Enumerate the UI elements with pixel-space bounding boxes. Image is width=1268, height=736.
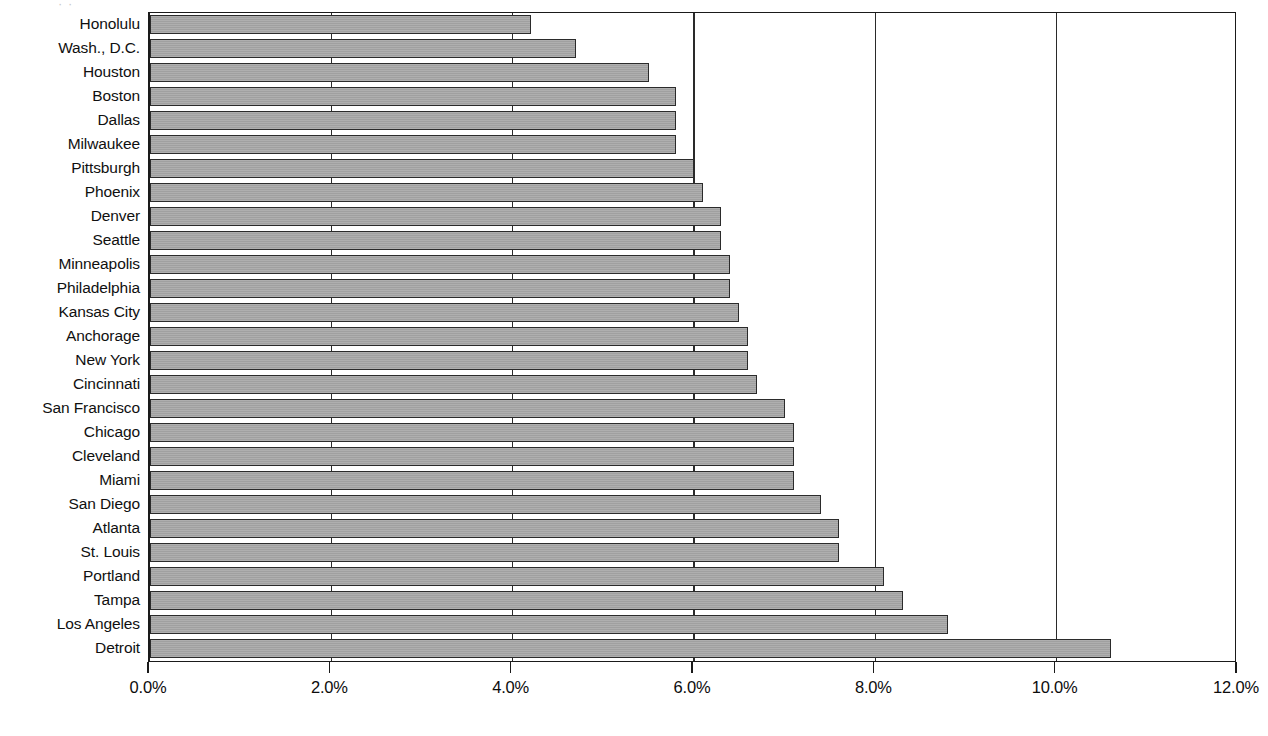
category-label: Boston xyxy=(0,88,140,104)
bar xyxy=(150,231,721,250)
bar-row xyxy=(150,85,1238,109)
bar xyxy=(150,567,884,586)
x-axis: 0.0%2.0%4.0%6.0%8.0%10.0%12.0% xyxy=(148,662,1236,722)
x-tick xyxy=(1235,662,1237,673)
x-tick xyxy=(691,662,693,673)
x-tick xyxy=(873,662,875,673)
bar-row xyxy=(150,349,1238,373)
category-label: Phoenix xyxy=(0,184,140,200)
bar xyxy=(150,63,649,82)
category-label: New York xyxy=(0,352,140,368)
category-label: Cincinnati xyxy=(0,376,140,392)
bar xyxy=(150,111,676,130)
x-tick-label: 6.0% xyxy=(674,678,711,696)
bar-row xyxy=(150,517,1238,541)
bar xyxy=(150,207,721,226)
bar xyxy=(150,519,839,538)
bar xyxy=(150,183,703,202)
category-label: Honolulu xyxy=(0,16,140,32)
bar xyxy=(150,447,794,466)
x-tick-label: 12.0% xyxy=(1213,678,1259,696)
bar-row xyxy=(150,37,1238,61)
bar-row xyxy=(150,589,1238,613)
bar-row xyxy=(150,109,1238,133)
bar xyxy=(150,87,676,106)
plot-area xyxy=(148,12,1236,662)
category-label: Dallas xyxy=(0,112,140,128)
category-label: San Francisco xyxy=(0,400,140,416)
category-label: Atlanta xyxy=(0,520,140,536)
category-label: San Diego xyxy=(0,496,140,512)
bar-row xyxy=(150,133,1238,157)
bar xyxy=(150,303,739,322)
bar-row xyxy=(150,565,1238,589)
bar xyxy=(150,279,730,298)
category-label: Wash., D.C. xyxy=(0,40,140,56)
category-axis-labels: HonoluluWash., D.C.HoustonBostonDallasMi… xyxy=(0,12,140,662)
bar-row xyxy=(150,637,1238,661)
bar-row xyxy=(150,13,1238,37)
x-tick xyxy=(1054,662,1056,673)
x-tick-label: 8.0% xyxy=(855,678,892,696)
category-label: Pittsburgh xyxy=(0,160,140,176)
bar xyxy=(150,639,1111,658)
category-label: Miami xyxy=(0,472,140,488)
bar xyxy=(150,255,730,274)
bar-row xyxy=(150,325,1238,349)
bar xyxy=(150,351,748,370)
horizontal-bar-chart: · · HonoluluWash., D.C.HoustonBostonDall… xyxy=(0,0,1268,736)
bar-row xyxy=(150,253,1238,277)
category-label: Tampa xyxy=(0,592,140,608)
category-label: Cleveland xyxy=(0,448,140,464)
x-tick-label: 0.0% xyxy=(130,678,167,696)
bar-row xyxy=(150,301,1238,325)
bar xyxy=(150,159,694,178)
category-label: Houston xyxy=(0,64,140,80)
bar xyxy=(150,423,794,442)
category-label: Seattle xyxy=(0,232,140,248)
bar xyxy=(150,375,757,394)
bar-row xyxy=(150,613,1238,637)
bar xyxy=(150,471,794,490)
bar-row xyxy=(150,397,1238,421)
category-label: Kansas City xyxy=(0,304,140,320)
bar-row xyxy=(150,373,1238,397)
x-tick-label: 4.0% xyxy=(492,678,529,696)
category-label: Milwaukee xyxy=(0,136,140,152)
category-label: Minneapolis xyxy=(0,256,140,272)
category-label: Anchorage xyxy=(0,328,140,344)
bar xyxy=(150,399,785,418)
bar xyxy=(150,495,821,514)
bar-row xyxy=(150,205,1238,229)
bar xyxy=(150,591,903,610)
bar-row xyxy=(150,541,1238,565)
category-label: St. Louis xyxy=(0,544,140,560)
bar-row xyxy=(150,469,1238,493)
bar xyxy=(150,543,839,562)
x-tick xyxy=(329,662,331,673)
category-label: Los Angeles xyxy=(0,616,140,632)
bar xyxy=(150,15,531,34)
bar-row xyxy=(150,157,1238,181)
bar-row xyxy=(150,181,1238,205)
bar-row xyxy=(150,493,1238,517)
x-tick xyxy=(147,662,149,673)
x-tick-label: 2.0% xyxy=(311,678,348,696)
category-label: Philadelphia xyxy=(0,280,140,296)
bar-row xyxy=(150,277,1238,301)
category-label: Portland xyxy=(0,568,140,584)
x-tick-label: 10.0% xyxy=(1032,678,1078,696)
bar-row xyxy=(150,421,1238,445)
category-label: Detroit xyxy=(0,640,140,656)
bar-row xyxy=(150,445,1238,469)
category-label: Denver xyxy=(0,208,140,224)
bar-row xyxy=(150,61,1238,85)
cropped-title-remnant: · · xyxy=(58,0,73,11)
category-label: Chicago xyxy=(0,424,140,440)
bar xyxy=(150,39,576,58)
bar xyxy=(150,327,748,346)
x-tick xyxy=(510,662,512,673)
bar xyxy=(150,135,676,154)
bar xyxy=(150,615,948,634)
bar-row xyxy=(150,229,1238,253)
